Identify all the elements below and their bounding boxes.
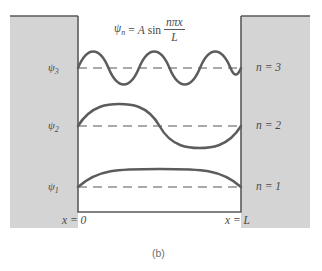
quantum-number-label-n2: n = 2 — [256, 120, 281, 132]
wavefunction-equation: ψn = A sin nπx L — [114, 16, 185, 43]
equation-amplitude: A — [138, 24, 145, 36]
psi-label-n3: ψ3 — [48, 62, 59, 76]
equation-denominator: L — [171, 30, 177, 43]
figure-caption: (b) — [152, 247, 165, 259]
quantum-number-label-n1: n = 1 — [256, 181, 281, 193]
psi-label-n2: ψ2 — [48, 120, 59, 134]
wavefunction-curve-n1 — [78, 169, 241, 187]
well-walls-outline — [78, 16, 241, 212]
quantum-number-label-n3: n = 3 — [256, 62, 281, 74]
axis-label-x-L: x = L — [225, 215, 250, 227]
psi-label-n1: ψ1 — [48, 181, 59, 195]
equation-equals: = — [128, 24, 135, 36]
equation-sin: sin — [148, 24, 161, 36]
wave-function-figure: ψn = A sin nπx L ψ3 ψ2 ψ1 n = 3 n = 2 n … — [0, 0, 322, 271]
axis-label-x-zero: x = 0 — [62, 215, 86, 227]
equation-numerator: nπx — [164, 16, 185, 30]
equation-lhs: ψn — [114, 22, 125, 37]
equation-fraction: nπx L — [164, 16, 185, 43]
left-barrier-region — [10, 16, 78, 228]
